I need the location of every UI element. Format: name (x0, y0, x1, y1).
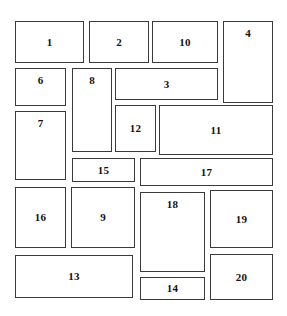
box-label-11: 11 (211, 125, 222, 136)
box-14[interactable]: 14 (140, 277, 205, 300)
box-label-4: 4 (245, 28, 251, 39)
box-label-1: 1 (47, 37, 53, 48)
box-label-3: 3 (164, 79, 170, 90)
box-9[interactable]: 9 (71, 187, 135, 248)
box-label-10: 10 (179, 37, 190, 48)
layout-canvas: 121046837121115171691819132014 (0, 0, 287, 316)
box-13[interactable]: 13 (15, 255, 133, 298)
box-2[interactable]: 2 (89, 21, 149, 63)
box-label-20: 20 (236, 272, 247, 283)
box-4[interactable]: 4 (223, 21, 273, 103)
box-label-16: 16 (35, 212, 46, 223)
box-label-8: 8 (89, 75, 95, 86)
box-label-6: 6 (38, 75, 44, 86)
box-6[interactable]: 6 (15, 68, 66, 106)
box-16[interactable]: 16 (15, 187, 66, 248)
box-15[interactable]: 15 (72, 158, 135, 182)
box-3[interactable]: 3 (115, 68, 218, 100)
box-11[interactable]: 11 (159, 105, 273, 155)
box-10[interactable]: 10 (152, 21, 218, 63)
box-8[interactable]: 8 (72, 68, 112, 152)
box-12[interactable]: 12 (115, 105, 156, 152)
box-label-19: 19 (236, 214, 247, 225)
box-label-2: 2 (116, 37, 122, 48)
box-7[interactable]: 7 (15, 111, 66, 180)
box-18[interactable]: 18 (140, 192, 205, 272)
box-20[interactable]: 20 (210, 254, 273, 300)
box-1[interactable]: 1 (15, 21, 84, 63)
box-label-15: 15 (98, 165, 109, 176)
box-label-17: 17 (201, 167, 212, 178)
box-label-12: 12 (130, 123, 141, 134)
box-label-9: 9 (100, 212, 106, 223)
box-label-13: 13 (68, 271, 79, 282)
box-17[interactable]: 17 (140, 158, 273, 186)
box-19[interactable]: 19 (210, 190, 273, 248)
box-label-7: 7 (38, 118, 44, 129)
box-label-18: 18 (167, 199, 178, 210)
box-label-14: 14 (167, 283, 178, 294)
